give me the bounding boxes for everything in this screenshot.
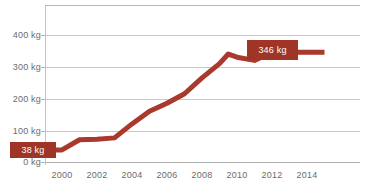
line-chart: 400 kg 300 kg 200 kg 100 kg 0 kg 2000 20… [0,0,365,186]
data-label-start: 38 kg [10,142,56,158]
data-series-line [0,0,365,186]
data-label-end: 346 kg [247,40,298,60]
